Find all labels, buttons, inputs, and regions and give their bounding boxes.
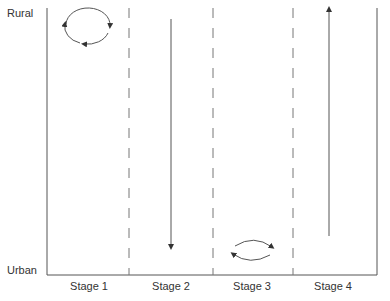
stage-1-label: Stage 1 (70, 280, 108, 292)
stage-2-label: Stage 2 (152, 280, 190, 292)
y-axis-top-label: Rural (7, 7, 33, 19)
stage3-two-way-arrows-icon (233, 240, 272, 260)
stage-3-label: Stage 3 (233, 280, 271, 292)
y-axis-bottom-label: Urban (7, 264, 37, 276)
stage-4-label: Stage 4 (314, 280, 352, 292)
diagram-graphics (0, 0, 390, 301)
stage1-cycle-icon (65, 8, 110, 44)
